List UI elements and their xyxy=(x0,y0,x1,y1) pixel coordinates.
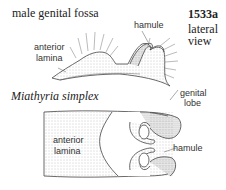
label-bottom-hamule: hamule xyxy=(173,143,203,153)
view-label-line2: view xyxy=(188,35,218,47)
lateral-view-drawing xyxy=(52,32,178,86)
label-genital-2: lobe xyxy=(184,98,201,108)
label-top-anterior-1: anterior xyxy=(34,42,65,52)
label-top-hamule: hamule xyxy=(134,20,164,30)
label-bottom-anterior-2: lamina xyxy=(54,146,81,156)
label-bottom-anterior-1: anterior xyxy=(53,135,84,145)
view-label: lateral view xyxy=(188,23,218,47)
label-top-anterior-2: lamina xyxy=(36,53,63,63)
top-hamule-leader xyxy=(142,31,148,42)
figure-number: 1533a xyxy=(188,7,218,22)
species-name: Miathyria simplex xyxy=(11,89,99,104)
label-genital-1: genital xyxy=(180,88,207,98)
genital-lobe-leader xyxy=(170,90,178,100)
figure-heading: male genital fossa xyxy=(12,6,99,21)
